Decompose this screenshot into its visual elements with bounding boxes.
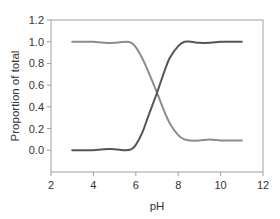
y-axis: 0.00.20.40.60.81.01.2 <box>29 14 51 156</box>
x-tick-label: 6 <box>133 179 139 191</box>
x-tick-label: 12 <box>257 179 269 191</box>
x-tick-label: 4 <box>90 179 96 191</box>
y-tick-label: 1.2 <box>29 14 44 26</box>
series-line-increasing <box>72 41 242 150</box>
y-tick-label: 0.0 <box>29 144 44 156</box>
x-tick-label: 2 <box>48 179 54 191</box>
x-axis-title: pH <box>150 200 165 212</box>
chart: 0.00.20.40.60.81.01.2 24681012 pH Propor… <box>0 0 280 219</box>
x-axis: 24681012 <box>48 172 269 191</box>
y-tick-label: 0.6 <box>29 79 44 91</box>
x-tick-label: 10 <box>214 179 226 191</box>
y-tick-label: 0.4 <box>29 101 44 113</box>
y-axis-title: Proportion of total <box>9 51 21 142</box>
y-tick-label: 0.8 <box>29 57 44 69</box>
x-tick-label: 8 <box>175 179 181 191</box>
series-layer <box>72 41 242 150</box>
y-tick-label: 1.0 <box>29 36 44 48</box>
y-tick-label: 0.2 <box>29 123 44 135</box>
plot-area-frame <box>51 20 263 172</box>
